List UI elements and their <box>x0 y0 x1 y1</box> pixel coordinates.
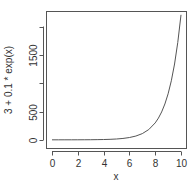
y-tick-label: 500 <box>28 104 39 121</box>
line-chart: 0246810 05001500 x 3 + 0.1 * exp(x) <box>0 0 194 184</box>
y-tick-label: 1500 <box>28 44 39 67</box>
x-axis-label: x <box>114 171 119 182</box>
x-axis: 0246810 <box>50 152 188 169</box>
x-tick-label: 6 <box>127 158 133 169</box>
x-tick-label: 10 <box>176 158 188 169</box>
x-tick-label: 0 <box>50 158 56 169</box>
data-line <box>52 15 181 140</box>
y-axis: 05001500 <box>28 27 44 144</box>
x-tick-label: 4 <box>102 158 108 169</box>
y-tick-label: 0 <box>28 137 39 143</box>
x-tick-label: 8 <box>153 158 159 169</box>
x-tick-label: 2 <box>76 158 82 169</box>
y-axis-label: 3 + 0.1 * exp(x) <box>3 46 14 114</box>
plot-box <box>47 12 187 149</box>
